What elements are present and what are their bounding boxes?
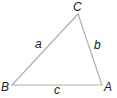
triangle-diagram: C B A a b c — [0, 0, 117, 98]
vertex-label-a: A — [103, 80, 112, 94]
side-label-c: c — [54, 83, 60, 97]
side-label-a: a — [35, 37, 42, 51]
triangle-shape — [12, 14, 102, 85]
vertex-label-b: B — [1, 80, 9, 94]
side-label-b: b — [94, 38, 101, 52]
vertex-label-c: C — [73, 0, 82, 14]
